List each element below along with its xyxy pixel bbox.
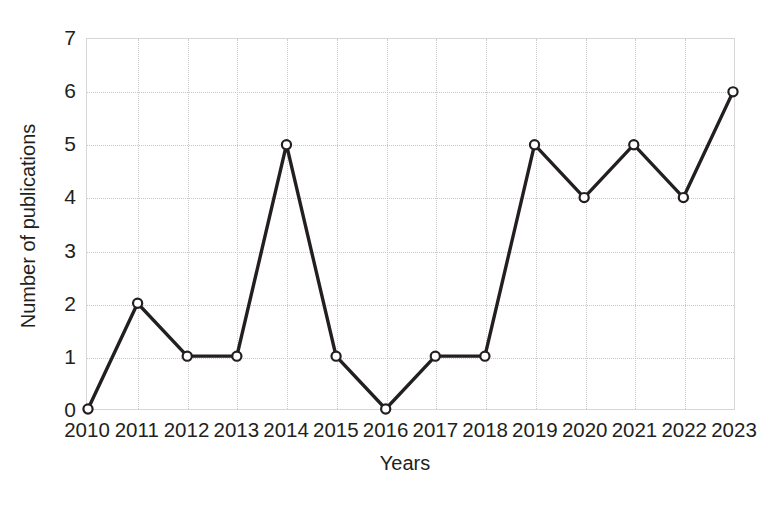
y-axis-tick-label: 7 <box>6 27 76 48</box>
y-axis-tick-label: 2 <box>6 293 76 314</box>
data-point-marker <box>728 87 737 96</box>
data-point-marker <box>480 352 489 361</box>
data-point-marker <box>381 404 390 413</box>
x-axis-tick-label: 2023 <box>702 418 766 442</box>
data-point-marker <box>83 404 92 413</box>
y-axis-tick-label: 4 <box>6 186 76 207</box>
data-point-marker <box>331 352 340 361</box>
line-series <box>87 39 734 409</box>
y-axis-tick-label: 1 <box>6 346 76 367</box>
data-point-marker <box>530 140 539 149</box>
x-axis-title: Years <box>0 452 782 475</box>
y-axis-tick-label: 6 <box>6 80 76 101</box>
x-axis-tick-labels: 2010201120122013201420152016201720182019… <box>86 418 735 448</box>
data-point-marker <box>133 299 142 308</box>
x-axis-title-text: Years <box>380 452 430 475</box>
y-axis-tick-label: 3 <box>6 240 76 261</box>
data-point-marker <box>629 140 638 149</box>
data-point-marker <box>282 140 291 149</box>
y-axis-tick-labels: 01234567 <box>0 38 76 410</box>
plot-area <box>86 38 735 410</box>
data-point-marker <box>183 352 192 361</box>
chart-figure: Number of publications 01234567 20102011… <box>0 0 782 506</box>
series-polyline <box>88 92 733 409</box>
data-point-marker <box>431 352 440 361</box>
y-axis-tick-label: 5 <box>6 133 76 154</box>
y-axis-tick-label: 0 <box>6 399 76 420</box>
series-markers <box>83 87 737 413</box>
data-point-marker <box>679 193 688 202</box>
data-point-marker <box>580 193 589 202</box>
data-point-marker <box>232 352 241 361</box>
